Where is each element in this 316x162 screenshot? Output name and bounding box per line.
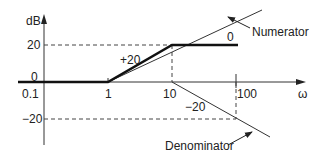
tick-label-100: 100: [237, 88, 257, 100]
tick-label-01: 0.1: [22, 88, 39, 100]
tick-label-0: 0: [31, 71, 38, 83]
numerator-leader: [228, 17, 250, 28]
denominator-label: Denominator: [165, 140, 234, 152]
slope-label-plus20: +20: [120, 54, 140, 66]
tick-label-1: 1: [105, 88, 112, 100]
x-axis-label: ω: [298, 88, 307, 100]
y-axis-label: dB: [26, 15, 41, 27]
tick-label-m20: −20: [22, 113, 42, 125]
tick-label-20: 20: [27, 39, 40, 51]
slope-label-zero: 0: [227, 31, 234, 43]
slope-label-minus20: −20: [185, 101, 205, 113]
numerator-label: Numerator: [252, 26, 309, 38]
y-axis-arrow-icon: [41, 14, 47, 24]
tick-label-10: 10: [163, 88, 176, 100]
x-axis-arrow-icon: [296, 79, 306, 85]
